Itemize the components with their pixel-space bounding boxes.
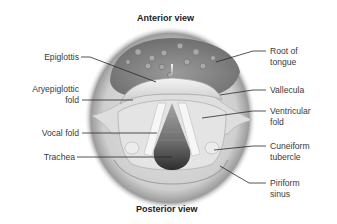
label-cuneiform-tubercle: Cuneiform tubercle <box>270 141 326 163</box>
label-epiglottis: Epiglottis <box>9 52 79 63</box>
posterior-view-title: Posterior view <box>136 204 198 214</box>
cuneiform-tubercle-left <box>125 142 139 154</box>
cuneiform-tubercle-right <box>205 142 219 154</box>
label-vallecula: Vallecula <box>270 85 330 96</box>
label-ventricular-fold: Ventricular fold <box>270 106 326 128</box>
label-piriform-sinus: Piriform sinus <box>270 178 320 200</box>
label-aryepiglottic-fold: Aryepiglottic fold <box>19 84 79 106</box>
label-vocal-fold: Vocal fold <box>9 128 79 139</box>
anterior-view-title: Anterior view <box>137 13 194 23</box>
label-root-of-tongue: Root of tongue <box>270 46 318 68</box>
label-trachea: Trachea <box>5 152 75 163</box>
